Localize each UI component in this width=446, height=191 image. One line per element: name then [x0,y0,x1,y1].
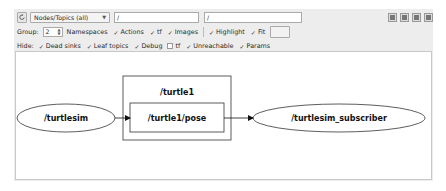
spin-arrows-icon: ▲▼ [58,28,61,36]
save-image-icon [426,15,431,20]
check-icon: ✓ [208,29,215,36]
graph-mode-value: Nodes/Topics (all) [34,14,88,21]
group-row: Group: 2 ▲▼ Namespaces ✓Actions ✓tf ✓Ima… [17,25,290,39]
load-dot-button[interactable] [388,13,397,22]
graph-mode-select[interactable]: Nodes/Topics (all) ▼ [30,12,110,23]
fit-label: Fit [258,28,266,36]
load-dot-icon [390,15,395,20]
actions-checkbox[interactable]: ✓Actions [113,28,144,36]
namespaces-label: Namespaces [67,28,108,36]
save-image-button[interactable] [424,13,433,22]
namespace-label: /turtle1 [160,88,194,97]
params-checkbox[interactable]: ✓Params [239,42,271,50]
node-label-turtlesim: /turtlesim [44,114,88,123]
unchecked-box-icon [167,43,173,49]
check-icon: ✓ [250,29,257,36]
images-label: Images [175,28,198,36]
group-spinbox[interactable]: 2 ▲▼ [43,27,63,37]
group-value: 2 [46,28,50,35]
params-label: Params [247,42,271,50]
check-icon: ✓ [38,43,45,50]
graph-view: /turtle1 /turtle1/pose /turtlesim /turtl… [16,52,433,181]
refresh-icon [19,14,25,21]
hide-label: Hide: [17,42,34,50]
chevron-down-icon: ▼ [102,13,106,22]
save-svg-icon [414,15,419,20]
dead-sinks-label: Dead sinks [46,42,81,50]
save-svg-button[interactable] [412,13,421,22]
check-icon: ✓ [239,43,246,50]
check-icon: ✓ [185,43,192,50]
highlight-label: Highlight [216,28,245,36]
rqt-graph-window: Nodes/Topics (all) ▼ / / Group: 2 ▲▼ Nam… [14,9,433,181]
group-label: Group: [17,28,39,36]
fit-checkbox[interactable]: ✓Fit [250,28,266,36]
tf-hide-label: tf [175,42,180,50]
topic-filter-input[interactable]: / [204,12,302,23]
namespace-filter-input[interactable]: / [114,12,199,23]
node-label-subscriber: /turtlesim_subscriber [291,114,387,123]
highlight-checkbox[interactable]: ✓Highlight [208,28,245,36]
debug-checkbox[interactable]: ✓Debug [133,42,162,50]
tf-label: tf [157,28,162,36]
check-icon: ✓ [167,29,174,36]
toolbar-row: Nodes/Topics (all) ▼ / / [14,11,433,25]
graph-canvas[interactable]: /turtle1 /turtle1/pose /turtlesim /turtl… [15,51,432,180]
refresh-button[interactable] [17,12,27,23]
leaf-topics-checkbox[interactable]: ✓Leaf topics [86,42,129,50]
actions-label: Actions [121,28,144,36]
unreachable-label: Unreachable [193,42,233,50]
save-dot-button[interactable] [400,13,409,22]
divider [203,27,204,37]
topic-label-pose: /turtle1/pose [148,114,207,123]
tf-group-checkbox[interactable]: ✓tf [149,28,162,36]
check-icon: ✓ [86,43,93,50]
images-checkbox[interactable]: ✓Images [167,28,198,36]
tf-hide-checkbox[interactable]: tf [167,42,180,50]
check-icon: ✓ [133,43,140,50]
save-dot-icon [402,15,407,20]
fit-in-view-button[interactable] [270,26,290,38]
leaf-topics-label: Leaf topics [94,42,129,50]
dead-sinks-checkbox[interactable]: ✓Dead sinks [38,42,81,50]
namespaces-checkbox[interactable]: Namespaces [67,28,108,36]
check-icon: ✓ [113,29,120,36]
debug-label: Debug [141,42,162,50]
check-icon: ✓ [149,29,156,36]
unreachable-checkbox[interactable]: ✓Unreachable [185,42,233,50]
